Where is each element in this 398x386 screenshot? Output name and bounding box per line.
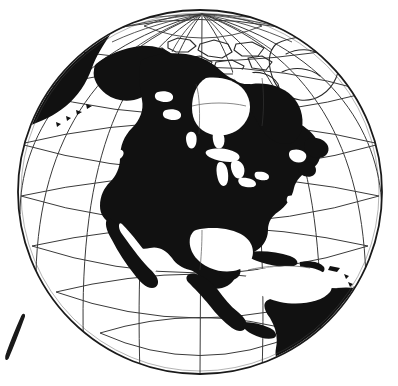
- ink-slash-mark: [6, 315, 24, 360]
- globe-figure: Orthographic Globe Projection Centered o…: [0, 0, 398, 386]
- globe-map-svg: Orthographic azimuthal projection of Ear…: [0, 0, 398, 386]
- land-outline-iceland: [350, 74, 366, 84]
